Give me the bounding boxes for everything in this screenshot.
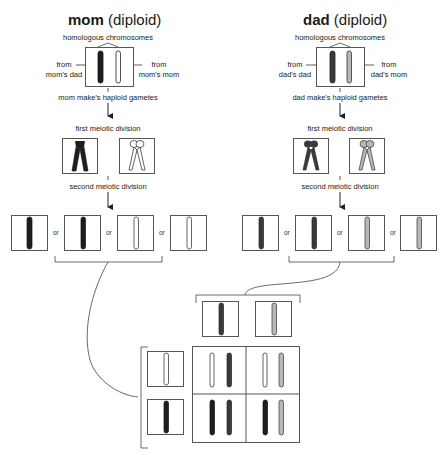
mom-gametes-label: mom make's haploid gametes	[58, 93, 157, 102]
dad-right-source-label: from dad's mom	[366, 60, 412, 79]
punnett-cell-black-lightgray	[263, 400, 284, 435]
dad-gamete-bracket	[289, 256, 394, 262]
dark-gray-chromosome	[312, 217, 317, 249]
mom-left-source-label: from mom's dad	[44, 60, 84, 79]
black-chromosome	[81, 217, 86, 249]
dark-gray-chromosome	[259, 217, 264, 249]
black-chromosome	[27, 217, 32, 249]
dad-left-source-label: from dad's dad	[274, 60, 316, 79]
mom-first-division-label: first meiotic division	[75, 124, 140, 133]
dad-or-3: or	[390, 229, 396, 236]
mom-gamete-4	[170, 215, 207, 251]
punnett-cell-white-lightgray	[263, 353, 284, 387]
mom-diploid-chromosomes	[86, 48, 133, 86]
dad-dark-sister-chromatids	[294, 139, 328, 173]
mom-gamete-bracket	[55, 256, 162, 262]
punnett-row-header-1	[147, 351, 184, 387]
light-gray-chromosome	[365, 217, 370, 249]
mom-paternal-chromosome	[98, 51, 103, 83]
mom-black-sister-chromatids	[63, 139, 97, 173]
punnett-row-header-2	[147, 399, 184, 435]
dad-gametes-label: dad make's haploid gametes	[292, 93, 387, 102]
mom-diploid-box	[85, 47, 134, 87]
punnett-column-header-1	[202, 301, 239, 337]
mom-gamete-3	[117, 215, 154, 251]
punnett-column-header-2	[255, 301, 292, 337]
punnett-cell-white-darkgray	[210, 353, 232, 387]
dad-title: dad (diploid)	[303, 11, 387, 28]
mom-gamete-1	[11, 215, 48, 251]
mom-gamete-2	[64, 215, 101, 251]
dad-or-1: or	[284, 229, 290, 236]
dad-paternal-chromosome	[330, 51, 335, 83]
punnett-grid	[192, 346, 300, 443]
dad-gamete-4	[400, 215, 437, 251]
light-gray-chromosome	[417, 217, 422, 249]
dad-to-columns-curve	[245, 262, 340, 295]
mom-homologous-label: homologous chromosomes	[63, 33, 153, 42]
dad-gamete-3	[348, 215, 385, 251]
punnett-cell-black-darkgray	[210, 400, 232, 435]
mom-division-box-1	[62, 138, 98, 174]
light-gray-chromosome	[272, 303, 277, 335]
mom-white-sister-chromatids	[120, 139, 154, 173]
punnett-cells	[193, 347, 299, 442]
white-chromosome	[187, 217, 192, 249]
dad-or-2: or	[337, 229, 343, 236]
white-chromosome	[134, 217, 139, 249]
dark-gray-chromosome	[219, 303, 224, 335]
mom-or-2: or	[106, 229, 112, 236]
mom-maternal-chromosome	[116, 51, 121, 83]
dad-first-division-label: first meiotic division	[307, 124, 372, 133]
mom-division-box-2	[119, 138, 155, 174]
dad-maternal-chromosome	[347, 51, 352, 83]
dad-homologous-label: homologous chromosomes	[295, 33, 385, 42]
white-chromosome	[164, 353, 169, 385]
mom-or-1: or	[53, 229, 59, 236]
dad-diploid-box	[316, 47, 365, 87]
dad-second-division-label: second meiotic division	[301, 182, 378, 191]
mom-title: mom (diploid)	[68, 11, 161, 28]
black-chromosome	[164, 401, 169, 433]
dad-diploid-chromosomes	[317, 48, 364, 86]
dad-division-box-2	[349, 138, 385, 174]
mom-second-division-label: second meiotic division	[69, 182, 146, 191]
dad-gamete-2	[295, 215, 332, 251]
dad-division-box-1	[293, 138, 329, 174]
mom-to-rows-curve	[87, 262, 138, 397]
mom-right-source-label: from mom's mom	[136, 60, 182, 79]
dad-light-sister-chromatids	[350, 139, 384, 173]
dad-gamete-1	[242, 215, 279, 251]
mom-or-3: or	[159, 229, 165, 236]
